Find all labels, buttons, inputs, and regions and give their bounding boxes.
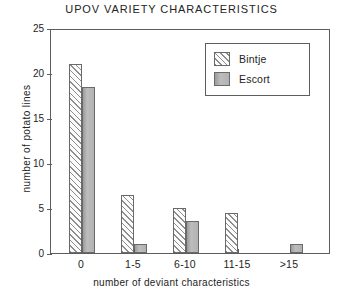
x-category-label-0: 0 <box>78 258 84 270</box>
x-tick-mark-6-10 <box>186 249 187 254</box>
x-category-label-11-15: 11-15 <box>223 258 250 270</box>
legend-item-escort: Escort <box>214 69 303 89</box>
y-tick-label: 20 <box>33 68 44 79</box>
bar-escort-0 <box>82 87 95 254</box>
bar-bintje-0 <box>69 64 82 253</box>
bar-escort-6-10 <box>186 221 199 253</box>
bar-group-0 <box>69 30 95 253</box>
x-category-label-1-5: 1-5 <box>125 258 141 270</box>
bar-bintje-1-5 <box>121 195 134 254</box>
y-tick-label: 10 <box>33 158 44 169</box>
y-tick-mark <box>47 254 52 255</box>
bar-escort-1-5 <box>134 244 147 253</box>
x-category-label-over-15: >15 <box>280 258 298 270</box>
x-tick-mark-11-15 <box>238 249 239 254</box>
plot-area: 0 5 10 15 20 25 <box>50 29 330 254</box>
bar-escort-over-15 <box>290 244 303 253</box>
y-tick-label: 15 <box>33 113 44 124</box>
x-axis-label: number of deviant characteristics <box>0 277 343 288</box>
bar-bintje-6-10 <box>173 208 186 253</box>
bar-bintje-11-15 <box>225 213 238 254</box>
x-tick-mark-0 <box>82 249 83 254</box>
y-tick-label: 25 <box>33 23 44 34</box>
y-tick-label: 0 <box>38 248 44 259</box>
y-tick-label: 5 <box>38 203 44 214</box>
chart-figure: UPOV VARIETY CHARACTERISTICS number of p… <box>0 0 343 296</box>
legend-label-escort: Escort <box>239 73 270 85</box>
legend-swatch-bintje-icon <box>214 52 230 66</box>
chart-title: UPOV VARIETY CHARACTERISTICS <box>0 3 343 15</box>
bar-group-1-5 <box>121 30 147 253</box>
legend-label-bintje: Bintje <box>239 53 266 65</box>
legend-swatch-escort-icon <box>214 72 230 86</box>
x-tick-mark-1-5 <box>134 249 135 254</box>
chart-legend: Bintje Escort <box>205 43 310 96</box>
legend-item-bintje: Bintje <box>214 49 303 69</box>
x-tick-mark-over-15 <box>290 249 291 254</box>
bar-group-6-10 <box>173 30 199 253</box>
y-axis-label: number of potato lines <box>21 64 32 214</box>
x-category-label-6-10: 6-10 <box>174 258 196 270</box>
